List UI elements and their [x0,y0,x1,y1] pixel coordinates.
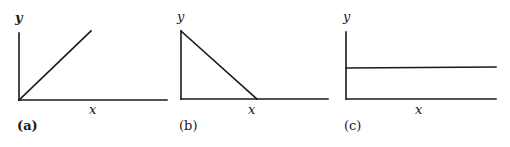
panel-b-label: (b) [179,118,197,133]
panel-c-x-label: x [415,102,422,117]
panel-c-label: (c) [344,118,361,133]
panel-c-graph [346,32,496,99]
panel-b-graph [181,31,328,99]
panel-a-x-label: x [89,102,96,117]
figure: y x (a) y x (b) y x (c) [0,0,510,147]
panel-a-line [19,31,91,100]
graphs-svg [0,0,510,147]
panel-b-x-label: x [248,102,255,117]
panel-a-label: (a) [17,118,38,133]
panel-c-y-label: y [343,9,350,24]
panel-a-graph [19,31,167,100]
panel-c-line [346,67,496,68]
panel-b-line [181,31,257,99]
panel-a-y-label: y [15,10,23,25]
panel-b-y-label: y [177,9,184,24]
